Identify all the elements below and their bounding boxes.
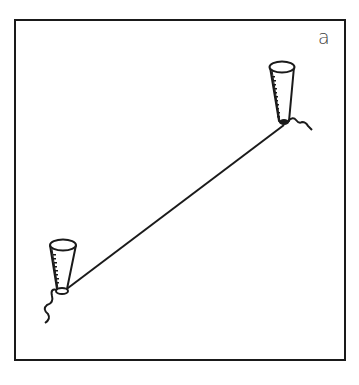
upper-string-tail [288, 118, 312, 130]
panel-label: a [318, 26, 330, 48]
upper-cup-icon [270, 62, 313, 131]
string-telephone-illustration [0, 0, 359, 385]
figure-frame [15, 20, 345, 360]
connecting-string [64, 125, 284, 291]
lower-string-tail [45, 290, 57, 323]
lower-cup-icon [45, 240, 76, 324]
